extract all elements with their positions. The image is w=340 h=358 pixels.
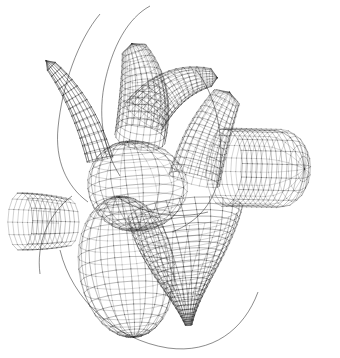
wireframe-viewport xyxy=(0,0,340,358)
heart-wireframe-scene xyxy=(0,0,340,358)
